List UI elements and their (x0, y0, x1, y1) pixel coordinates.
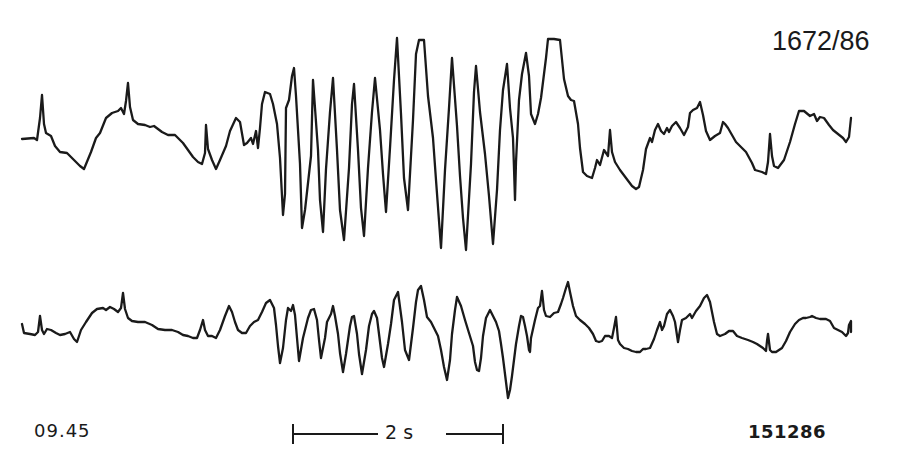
eeg-trace-channel-1 (22, 38, 851, 250)
case-id-label: 1672/86 (772, 26, 870, 57)
eeg-trace-channel-2 (22, 282, 851, 398)
eeg-traces (0, 0, 898, 466)
scale-bar-label: 2 s (383, 421, 415, 443)
eeg-figure: 1672/86 09.45 151286 2 s (0, 0, 898, 466)
scale-bar-line-right (446, 433, 504, 435)
recording-date-label: 151286 (748, 421, 826, 442)
recording-time-label: 09.45 (34, 420, 91, 441)
scale-bar-right-tick (502, 424, 504, 444)
scale-bar-line-left (292, 433, 378, 435)
time-scale-bar: 2 s (292, 424, 504, 446)
